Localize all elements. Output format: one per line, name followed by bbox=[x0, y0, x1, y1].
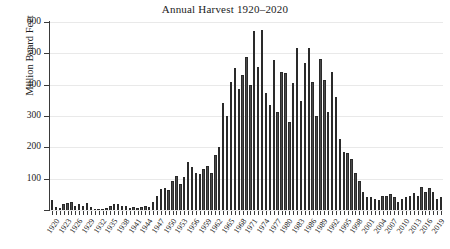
x-axis-tick-mark bbox=[52, 211, 53, 215]
y-axis-tick-label: 100 bbox=[1, 174, 41, 184]
bar bbox=[381, 196, 383, 210]
x-axis-tick-mark bbox=[297, 211, 298, 215]
bar bbox=[187, 162, 189, 210]
bar bbox=[167, 190, 169, 210]
bar bbox=[156, 196, 158, 210]
gridline bbox=[50, 22, 443, 23]
gridline bbox=[50, 53, 443, 54]
bar bbox=[66, 203, 68, 210]
bar bbox=[148, 207, 150, 210]
x-axis-tick-mark bbox=[425, 211, 426, 215]
bar bbox=[202, 169, 204, 210]
bar bbox=[261, 30, 263, 210]
y-axis-tick-label: 300 bbox=[1, 111, 41, 121]
bar bbox=[90, 207, 92, 210]
bar bbox=[276, 112, 278, 210]
y-axis-tick-mark bbox=[44, 210, 49, 211]
x-axis-tick-mark bbox=[71, 211, 72, 215]
x-axis-tick-mark bbox=[219, 211, 220, 215]
bar bbox=[280, 72, 282, 210]
bar bbox=[296, 48, 298, 210]
x-axis-tick-mark bbox=[332, 211, 333, 215]
x-axis-tick-mark bbox=[165, 211, 166, 215]
x-axis-tick-mark bbox=[161, 211, 162, 215]
bar bbox=[199, 174, 201, 210]
x-axis-tick-mark bbox=[324, 211, 325, 215]
x-axis-tick-mark bbox=[118, 211, 119, 215]
x-axis-tick-mark bbox=[250, 211, 251, 215]
y-axis-tick-mark bbox=[44, 116, 49, 117]
x-axis-tick-mark bbox=[138, 211, 139, 215]
x-axis-tick-mark bbox=[223, 211, 224, 215]
x-axis-tick-mark bbox=[192, 211, 193, 215]
x-axis-tick-mark bbox=[235, 211, 236, 215]
y-axis-tick-label: 500 bbox=[1, 48, 41, 58]
bar bbox=[409, 196, 411, 210]
bar bbox=[226, 116, 228, 210]
bar bbox=[51, 200, 53, 210]
y-axis-tick-label: 400 bbox=[1, 80, 41, 90]
bar bbox=[428, 188, 430, 210]
x-axis-tick-mark bbox=[204, 211, 205, 215]
bar bbox=[78, 204, 80, 210]
x-axis-tick-mark bbox=[375, 211, 376, 215]
x-axis-tick-mark bbox=[355, 211, 356, 215]
bar bbox=[195, 173, 197, 210]
bar bbox=[331, 72, 333, 210]
y-axis-tick-mark bbox=[44, 22, 49, 23]
bar bbox=[432, 192, 434, 210]
x-axis-tick-mark bbox=[103, 211, 104, 215]
x-axis-tick-mark bbox=[95, 211, 96, 215]
x-axis-tick-mark bbox=[114, 211, 115, 215]
bar bbox=[234, 68, 236, 210]
x-axis-tick-mark bbox=[266, 211, 267, 215]
bar bbox=[354, 173, 356, 210]
bar bbox=[136, 208, 138, 210]
bar bbox=[245, 57, 247, 210]
x-axis-tick-mark bbox=[262, 211, 263, 215]
x-axis-tick-mark bbox=[130, 211, 131, 215]
bar bbox=[218, 147, 220, 210]
x-axis-tick-mark bbox=[68, 211, 69, 215]
bar bbox=[152, 202, 154, 210]
bar bbox=[191, 167, 193, 210]
x-axis-tick-mark bbox=[176, 211, 177, 215]
bar bbox=[230, 82, 232, 210]
x-axis-tick-mark bbox=[122, 211, 123, 215]
bar bbox=[315, 116, 317, 210]
x-axis-tick-mark bbox=[359, 211, 360, 215]
x-axis-tick-mark bbox=[243, 211, 244, 215]
bar bbox=[311, 82, 313, 210]
x-axis-tick-mark bbox=[285, 211, 286, 215]
x-axis-tick-mark bbox=[441, 211, 442, 215]
bar bbox=[179, 184, 181, 210]
bar bbox=[206, 166, 208, 210]
x-axis-tick-mark bbox=[200, 211, 201, 215]
bar bbox=[164, 188, 166, 210]
x-axis-tick-mark bbox=[75, 211, 76, 215]
x-axis-tick-mark bbox=[418, 211, 419, 215]
bar bbox=[300, 101, 302, 210]
x-axis-tick-mark bbox=[387, 211, 388, 215]
y-axis-tick-mark bbox=[44, 147, 49, 148]
bar bbox=[440, 197, 442, 210]
x-axis-tick-mark bbox=[340, 211, 341, 215]
bar bbox=[413, 193, 415, 210]
bar bbox=[424, 192, 426, 210]
bar bbox=[350, 159, 352, 210]
x-axis-tick-mark bbox=[99, 211, 100, 215]
bar bbox=[140, 207, 142, 210]
x-axis-tick-mark bbox=[91, 211, 92, 215]
y-axis-tick-label: 200 bbox=[1, 142, 41, 152]
x-axis-tick-mark bbox=[352, 211, 353, 215]
bar bbox=[335, 97, 337, 210]
x-axis-tick-mark bbox=[274, 211, 275, 215]
bar bbox=[420, 187, 422, 210]
x-axis-tick-mark bbox=[169, 211, 170, 215]
x-axis-tick-mark bbox=[367, 211, 368, 215]
x-axis-tick-mark bbox=[278, 211, 279, 215]
bar bbox=[94, 209, 96, 210]
x-axis-tick-mark bbox=[60, 211, 61, 215]
bar bbox=[304, 63, 306, 210]
x-axis-tick-mark bbox=[429, 211, 430, 215]
